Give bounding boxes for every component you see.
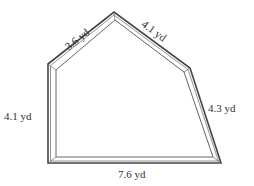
side-label-right: 4.3 yd (208, 102, 236, 114)
miter-line (48, 64, 56, 70)
side-label-upper-right: 4.1 yd (140, 18, 170, 44)
pentagon-diagram: 3.6 yd 4.1 yd 4.3 yd 7.6 yd 4.1 yd (0, 0, 254, 186)
miter-line (48, 157, 56, 163)
side-label-upper-left: 3.6 yd (62, 26, 91, 53)
side-label-bottom: 7.6 yd (118, 168, 146, 180)
side-label-left: 4.1 yd (4, 110, 32, 122)
